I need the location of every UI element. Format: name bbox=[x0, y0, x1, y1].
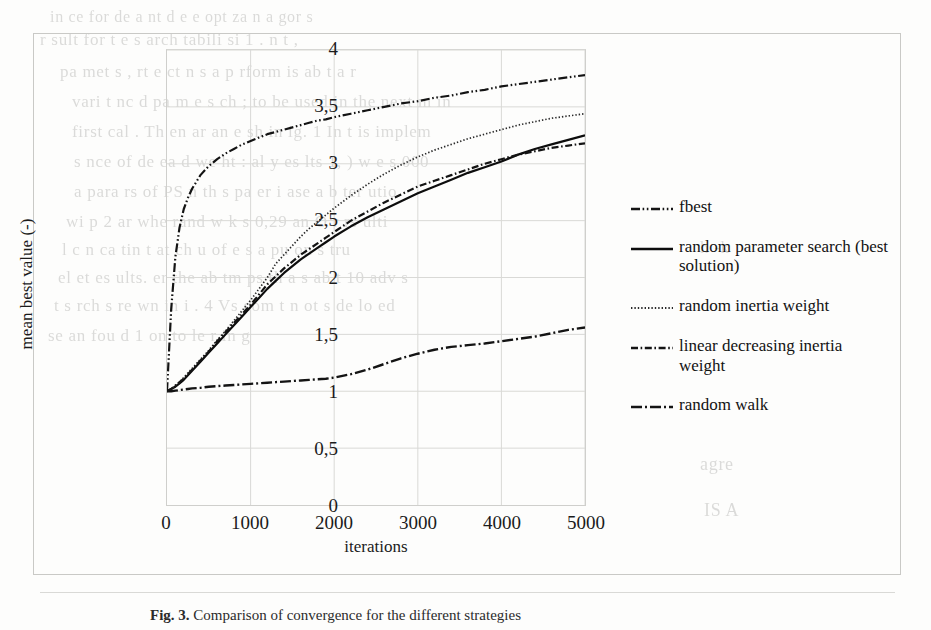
legend-item[interactable]: fbest bbox=[631, 197, 889, 217]
legend-label: random walk bbox=[679, 395, 768, 415]
legend-item[interactable]: random walk bbox=[631, 395, 889, 415]
x-tick-label: 4000 bbox=[462, 512, 542, 534]
legend-item[interactable]: random parameter search (best solution) bbox=[631, 237, 889, 276]
caption-text: Comparison of convergence for the differ… bbox=[193, 607, 521, 623]
legend-label: random inertia weight bbox=[679, 296, 829, 316]
y-tick-label: 3 bbox=[278, 152, 338, 174]
y-tick-label: 3,5 bbox=[278, 95, 338, 117]
bleedthrough-text: in ce for de a nt d e e opt za n a gor s bbox=[50, 8, 313, 26]
y-tick-label: 4 bbox=[278, 38, 338, 60]
legend-line-swatch bbox=[631, 202, 673, 216]
series-line bbox=[167, 75, 585, 391]
page-rule bbox=[40, 592, 895, 593]
caption-label: Fig. 3. bbox=[150, 607, 190, 623]
legend-item[interactable]: linear decreasing inertia weight bbox=[631, 336, 889, 375]
y-axis-title: mean best value (-) bbox=[17, 219, 37, 350]
x-tick-label: 2000 bbox=[294, 512, 374, 534]
x-tick-label: 0 bbox=[126, 512, 206, 534]
legend-label: linear decreasing inertia weight bbox=[679, 336, 889, 375]
legend-line-swatch bbox=[631, 400, 673, 414]
y-tick-label: 2,5 bbox=[278, 209, 338, 231]
legend-label: random parameter search (best solution) bbox=[679, 237, 889, 276]
series-line bbox=[167, 114, 585, 392]
series-line bbox=[167, 135, 585, 391]
y-tick-label: 1 bbox=[278, 381, 338, 403]
plot-area bbox=[166, 49, 586, 506]
figure-caption: Fig. 3. Comparison of convergence for th… bbox=[150, 607, 521, 624]
y-tick-label: 2 bbox=[278, 267, 338, 289]
legend-item[interactable]: random inertia weight bbox=[631, 296, 889, 316]
x-axis-title: iterations bbox=[344, 537, 407, 557]
y-tick-label: 1,5 bbox=[278, 324, 338, 346]
series-line bbox=[167, 143, 585, 391]
legend-line-swatch bbox=[631, 341, 673, 355]
chart-legend: fbestrandom parameter search (best solut… bbox=[631, 197, 889, 435]
x-tick-label: 3000 bbox=[378, 512, 458, 534]
x-tick-label: 1000 bbox=[210, 512, 290, 534]
legend-line-swatch bbox=[631, 301, 673, 315]
series-line bbox=[167, 328, 585, 392]
legend-line-swatch bbox=[631, 242, 673, 256]
y-tick-label: 0,5 bbox=[278, 438, 338, 460]
x-tick-label: 5000 bbox=[546, 512, 626, 534]
legend-label: fbest bbox=[679, 197, 712, 217]
series-curves bbox=[167, 50, 585, 505]
figure-frame: mean best value (-) 00,511,522,533,54 01… bbox=[33, 33, 901, 575]
